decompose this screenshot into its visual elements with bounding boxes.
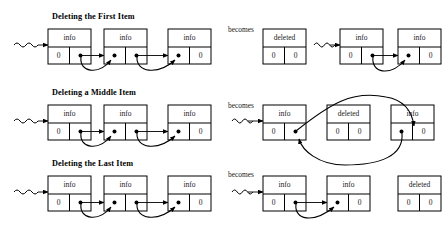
node-after-first-2: info 0 xyxy=(340,29,383,64)
node-right-value: 0 xyxy=(199,198,203,207)
node-before-middle-3: info 0 xyxy=(168,105,211,140)
row-title-middle: Deleting a Middle Item xyxy=(52,88,136,97)
node-after-last-2: info 0 xyxy=(327,176,370,211)
head-pointer-squiggle-middle-before xyxy=(14,119,48,123)
row-middle: Deleting a Middle Item becomes info 0 in… xyxy=(14,88,434,165)
node-after-middle-1: info 0 xyxy=(263,105,306,140)
node-pointer-dot xyxy=(135,54,139,58)
node-right-value: 0 xyxy=(294,51,298,60)
node-left-value: 0 xyxy=(57,51,61,60)
node-before-last-2: info xyxy=(104,176,147,211)
node-info-label: info xyxy=(413,33,425,42)
node-info-label: info xyxy=(119,109,131,118)
node-before-first-1: info 0 xyxy=(48,29,91,64)
node-info-label: info xyxy=(355,33,367,42)
node-after-last-deleted: deleted 0 0 xyxy=(398,176,441,211)
node-right-value: 0 xyxy=(429,51,433,60)
node-pointer-dot xyxy=(407,54,411,58)
node-pointer-dot xyxy=(79,201,83,205)
node-pointer-dot xyxy=(113,130,117,134)
node-after-first-deleted: deleted 0 0 xyxy=(263,29,306,64)
node-after-last-1: info 0 xyxy=(263,176,306,211)
head-pointer-squiggle-first-before xyxy=(14,43,48,47)
node-pointer-dot xyxy=(400,130,404,134)
row-title-last: Deleting the Last Item xyxy=(52,159,133,168)
node-after-middle-deleted: deleted 0 0 xyxy=(327,105,370,140)
node-left-value: 0 xyxy=(272,51,276,60)
node-pointer-dot xyxy=(294,201,298,205)
node-after-middle-3: info 0 xyxy=(391,105,434,140)
node-right-value: 0 xyxy=(422,127,426,136)
node-after-first-3: info 0 xyxy=(398,29,441,64)
node-left-value: 0 xyxy=(407,198,411,207)
node-before-middle-2: info xyxy=(104,105,147,140)
node-info-label: info xyxy=(183,180,195,189)
node-pointer-dot xyxy=(371,54,375,58)
node-right-value: 0 xyxy=(358,198,362,207)
node-pointer-dot xyxy=(79,54,83,58)
node-before-middle-1: info 0 xyxy=(48,105,91,140)
node-info-label: info xyxy=(63,180,75,189)
node-pointer-dot xyxy=(135,130,139,134)
head-pointer-squiggle-first-after xyxy=(314,43,340,47)
node-left-value: 0 xyxy=(57,127,61,136)
node-left-value: 0 xyxy=(272,127,276,136)
node-right-value: 0 xyxy=(199,51,203,60)
node-before-last-1: info 0 xyxy=(48,176,91,211)
node-info-label: info xyxy=(183,109,195,118)
node-right-value: 0 xyxy=(429,198,433,207)
node-pointer-dot xyxy=(113,201,117,205)
node-info-label: info xyxy=(119,33,131,42)
row-title-first: Deleting the First Item xyxy=(52,12,135,21)
node-before-first-3: info 0 xyxy=(168,29,211,64)
node-before-last-3: info 0 xyxy=(168,176,211,211)
node-deleted-label: deleted xyxy=(338,109,360,118)
node-deleted-label: deleted xyxy=(274,33,296,42)
node-left-value: 0 xyxy=(272,198,276,207)
node-pointer-dot xyxy=(79,130,83,134)
head-pointer-squiggle-last-before xyxy=(14,190,48,194)
node-info-label: info xyxy=(63,109,75,118)
node-left-value: 0 xyxy=(336,127,340,136)
node-info-label: info xyxy=(119,180,131,189)
head-pointer-squiggle-last-after xyxy=(232,190,263,194)
node-pointer-dot xyxy=(135,201,139,205)
node-info-label: info xyxy=(63,33,75,42)
node-pointer-dot xyxy=(177,130,181,134)
node-info-label: info xyxy=(278,180,290,189)
node-right-value: 0 xyxy=(199,127,203,136)
linked-list-deletion-figure: Deleting the First Item becomes info 0 xyxy=(0,0,448,230)
node-info-label: info xyxy=(342,180,354,189)
row-last: Deleting the Last Item becomes info 0 in… xyxy=(14,159,441,218)
node-info-label: info xyxy=(183,33,195,42)
node-pointer-dot xyxy=(177,201,181,205)
node-pointer-dot xyxy=(113,54,117,58)
node-pointer-dot xyxy=(177,54,181,58)
becomes-label-first: becomes xyxy=(228,25,254,34)
node-pointer-dot xyxy=(336,201,340,205)
node-info-label: info xyxy=(278,109,290,118)
node-left-value: 0 xyxy=(57,198,61,207)
node-right-value: 0 xyxy=(358,127,362,136)
head-pointer-squiggle-middle-after xyxy=(232,119,263,123)
diagram-canvas: Deleting the First Item becomes info 0 xyxy=(0,0,448,230)
row-first: Deleting the First Item becomes info 0 xyxy=(14,12,441,71)
node-left-value: 0 xyxy=(349,51,353,60)
becomes-label-middle: becomes xyxy=(228,101,254,110)
node-before-first-2: info xyxy=(104,29,147,64)
node-deleted-label: deleted xyxy=(409,180,431,189)
becomes-label-last: becomes xyxy=(228,170,254,179)
